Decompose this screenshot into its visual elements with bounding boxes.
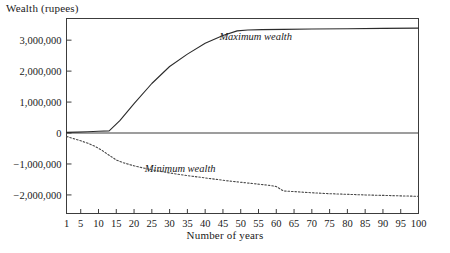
series-paths — [67, 28, 419, 196]
wealth-chart: Wealth (rupees) Number of years 3,000,00… — [0, 0, 450, 253]
plot-frame — [67, 19, 419, 214]
series-line — [67, 136, 419, 196]
plot-canvas — [0, 0, 450, 253]
tick-marks — [67, 40, 419, 213]
series-line — [67, 28, 419, 132]
